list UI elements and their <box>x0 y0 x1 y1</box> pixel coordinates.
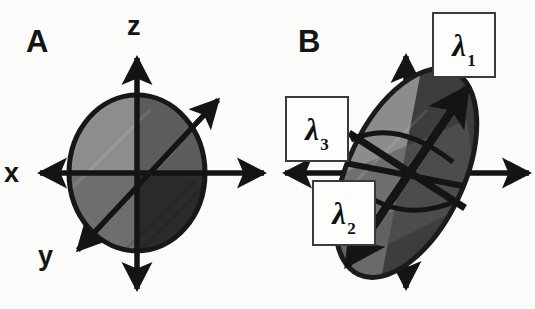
eigenvalue-label-lambda3: λ3 <box>285 96 349 162</box>
lambda-symbol: λ <box>305 114 319 145</box>
axis-label-x: x <box>4 160 19 187</box>
eigenvalue-label-lambda2: λ2 <box>312 180 376 246</box>
lambda-subscript: 1 <box>467 52 476 76</box>
lambda-symbol: λ <box>452 30 466 61</box>
axis-label-y: y <box>38 243 53 270</box>
panel-b-letter: B <box>298 26 320 57</box>
panel-a-letter: A <box>26 26 48 57</box>
panel-b-anisotropic: B λ1 λ3 λ2 <box>267 0 535 309</box>
lambda-symbol: λ <box>332 198 346 229</box>
panel-a-isotropic: A x y z <box>0 0 268 309</box>
diffusion-tensor-figure: A x y z <box>0 0 535 309</box>
lambda-subscript: 2 <box>347 220 356 244</box>
lambda-subscript: 3 <box>320 136 329 160</box>
axis-label-z: z <box>127 13 141 40</box>
eigenvalue-label-lambda1: λ1 <box>432 12 496 78</box>
